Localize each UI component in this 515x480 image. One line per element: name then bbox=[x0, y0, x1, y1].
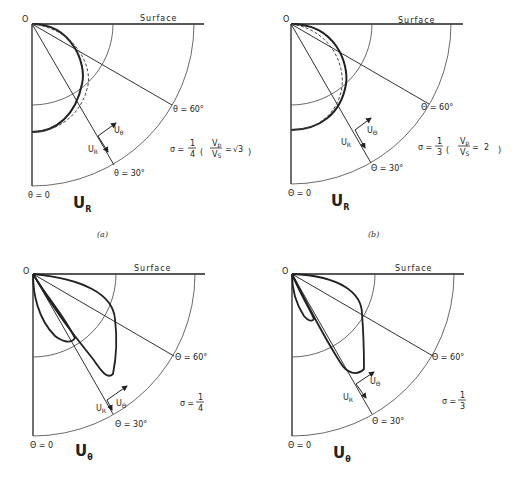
surface-label: Surface bbox=[398, 16, 435, 25]
ur-label: UR bbox=[341, 138, 351, 148]
angle-60-label: θ = 60° bbox=[173, 105, 204, 114]
surface-label: Surface bbox=[140, 14, 177, 23]
caption-b: (b) bbox=[368, 230, 379, 239]
svg-text:=: = bbox=[225, 145, 232, 154]
ut-label: Uθ bbox=[114, 126, 124, 136]
svg-text:σ =: σ = bbox=[442, 397, 456, 406]
ray-60 bbox=[32, 24, 172, 105]
ut-label: UΘ bbox=[116, 399, 127, 409]
angle-30-label: Θ = 30° bbox=[372, 417, 404, 426]
svg-text:1: 1 bbox=[190, 139, 195, 148]
angle-60-label: Θ = 60° bbox=[432, 353, 464, 362]
svg-text:σ =: σ = bbox=[170, 145, 184, 154]
outer-arc bbox=[32, 24, 194, 186]
radiation-pattern-figure: O Surface θ = 60° θ = 30° θ = 0 Uθ UR UR… bbox=[0, 0, 515, 480]
ur-curve-solid bbox=[32, 24, 83, 132]
angle-30-label: Θ = 30° bbox=[115, 420, 147, 429]
svg-text:=: = bbox=[472, 143, 479, 152]
ur-label: UR bbox=[96, 404, 106, 414]
component-label: Uθ bbox=[75, 442, 93, 462]
origin-label: O bbox=[23, 267, 29, 276]
sigma-formula: σ = 1 4 bbox=[180, 393, 204, 413]
svg-text:√3: √3 bbox=[233, 145, 243, 154]
svg-text:(: ( bbox=[446, 146, 449, 155]
svg-text:3: 3 bbox=[437, 148, 442, 157]
svg-text:1: 1 bbox=[460, 391, 465, 400]
svg-text:4: 4 bbox=[198, 404, 203, 413]
svg-text:VS: VS bbox=[460, 148, 469, 157]
svg-text:Vp: Vp bbox=[212, 139, 221, 149]
ut-label: UΘ bbox=[370, 377, 381, 387]
svg-text:): ) bbox=[248, 148, 251, 157]
svg-text:1: 1 bbox=[198, 393, 203, 402]
sigma-formula: σ = 1 3 bbox=[442, 391, 466, 411]
caption-a: (a) bbox=[97, 230, 108, 239]
angle-0-label: Θ = 0 bbox=[288, 441, 311, 450]
angle-0-label: Θ = 0 bbox=[288, 189, 311, 198]
origin-label: O bbox=[22, 15, 28, 24]
component-label: Uθ bbox=[333, 444, 351, 464]
angle-0-label: θ = 0 bbox=[28, 191, 50, 200]
sigma-formula: σ = 1 3 ( Vp VS = 2 ) bbox=[418, 137, 501, 157]
svg-text:Vp: Vp bbox=[460, 137, 469, 147]
angle-0-label: Θ = 0 bbox=[30, 441, 53, 450]
svg-text:VS: VS bbox=[212, 150, 221, 159]
ur-label: UR bbox=[343, 393, 353, 403]
svg-text:): ) bbox=[498, 146, 501, 155]
svg-text:3: 3 bbox=[460, 402, 465, 411]
component-label: UR bbox=[331, 192, 349, 212]
ur-arrow bbox=[98, 136, 108, 152]
svg-text:2: 2 bbox=[484, 143, 489, 152]
angle-60-label: Θ = 60° bbox=[175, 353, 207, 362]
origin-label: O bbox=[283, 15, 289, 24]
svg-text:4: 4 bbox=[190, 150, 195, 159]
angle-30-label: Θ = 30° bbox=[371, 164, 403, 173]
svg-text:σ =: σ = bbox=[418, 143, 432, 152]
component-label: UR bbox=[73, 194, 91, 214]
ut-label: UΘ bbox=[367, 126, 378, 136]
origin-label: O bbox=[282, 267, 288, 276]
sigma-formula: σ = 1 4 ( Vp VS = √3 ) bbox=[170, 139, 251, 159]
svg-text:(: ( bbox=[200, 148, 203, 157]
svg-text:σ =: σ = bbox=[180, 399, 194, 408]
ur-label: UR bbox=[88, 145, 98, 155]
angle-30-label: θ = 30° bbox=[114, 169, 145, 178]
angle-60-label: Θ = 60° bbox=[421, 103, 453, 112]
surface-label: Surface bbox=[134, 264, 171, 273]
svg-text:1: 1 bbox=[437, 137, 442, 146]
surface-label: Surface bbox=[395, 264, 432, 273]
